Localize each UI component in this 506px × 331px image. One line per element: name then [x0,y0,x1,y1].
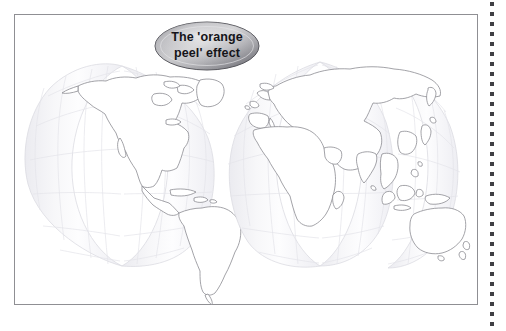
dotted-rule-dot [490,202,494,206]
dotted-rule-dot [490,112,494,116]
dotted-rule-dot [490,312,494,316]
dotted-rule-dot [490,32,494,36]
dotted-rule-dot [490,72,494,76]
dotted-rule-dot [490,282,494,286]
dotted-rule-dot [490,52,494,56]
dotted-rule-dot [490,212,494,216]
dotted-rule-dot [490,222,494,226]
dotted-rule-dot [490,122,494,126]
coastline-americas [62,75,241,305]
dotted-rule-dot [490,82,494,86]
dotted-rule-dot [490,302,494,306]
dotted-rule-dot [490,272,494,276]
dotted-rule-dot [490,132,494,136]
dotted-rule-dot [490,322,494,326]
dotted-rule-dot [490,162,494,166]
gore-cluster-americas [25,64,241,305]
dotted-rule-dot [490,62,494,66]
dotted-rule-decoration [490,0,495,331]
dotted-rule-dot [490,192,494,196]
dotted-rule-dot [490,262,494,266]
dotted-rule-dot [490,242,494,246]
dotted-rule-dot [490,2,494,6]
dotted-rule-dot [490,42,494,46]
callout-ellipse-shape [154,21,260,71]
dotted-rule-dot [490,232,494,236]
dotted-rule-dot [490,252,494,256]
dotted-rule-dot [490,172,494,176]
dotted-rule-dot [490,182,494,186]
dotted-rule-dot [490,12,494,16]
page-canvas: The 'orange peel' effect [0,0,506,331]
dotted-rule-dot [490,22,494,26]
dotted-rule-dot [490,142,494,146]
dotted-rule-dot [490,152,494,156]
dotted-rule-dot [490,102,494,106]
dotted-rule-dot [490,92,494,96]
gore-cluster-eurasia [228,62,470,268]
dotted-rule-dot [490,292,494,296]
